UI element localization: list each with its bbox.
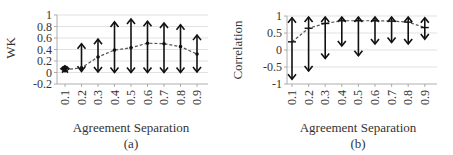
grid-lines [287, 16, 437, 67]
x-tick-label: 0.9 [418, 90, 432, 105]
y-axis [284, 16, 437, 87]
y-tick-label: -0.2 [33, 77, 52, 91]
x-axis-label: Agreement Separation [73, 120, 190, 135]
caption: (a) [124, 136, 138, 151]
y-tick-label: -0.5 [263, 60, 282, 74]
wk-chart: 10.80.60.40.20-0.2 0.10.20.30.40.50.60.7… [0, 0, 228, 155]
mean-point [195, 52, 199, 56]
y-axis-label: Correlation [230, 20, 245, 80]
mean-point [80, 66, 84, 70]
x-tick-label: 0.6 [368, 90, 382, 105]
mean-point [146, 41, 150, 45]
x-axis-label: Agreement Separation [300, 120, 417, 135]
x-tick-label: 0.5 [124, 90, 138, 105]
y-axis-label: WK [3, 37, 18, 59]
mean-point [63, 68, 67, 72]
y-tick-labels: 10.80.60.40.20-0.2 [33, 8, 52, 91]
range-arrows [288, 17, 429, 79]
x-tick-label: 0.7 [385, 90, 399, 105]
y-tick-label: 1 [276, 9, 282, 23]
x-tick-label: 0.8 [401, 90, 415, 105]
y-tick-label: 0.5 [267, 26, 282, 40]
mean-point [129, 46, 133, 50]
mean-point [179, 45, 183, 49]
correlation-chart: 10.50-0.5-1 0.10.20.30.40.50.60.70.80.9 … [225, 0, 453, 155]
y-tick-label: 0 [276, 43, 282, 57]
grid-lines [57, 15, 208, 73]
y-tick-label: -1 [272, 77, 282, 91]
mean-point [113, 48, 117, 52]
mean-point [96, 55, 100, 59]
mean-point [162, 42, 166, 46]
x-tick-label: 0.4 [108, 90, 122, 105]
x-tick-labels: 0.10.20.30.40.50.60.70.80.9 [285, 90, 432, 105]
x-tick-label: 0.1 [285, 90, 299, 105]
x-tick-labels: 0.10.20.30.40.50.60.70.80.9 [58, 90, 204, 105]
x-tick-label: 0.3 [318, 90, 332, 105]
caption: (b) [350, 136, 365, 151]
x-tick-label: 0.9 [190, 90, 204, 105]
x-tick-label: 0.5 [351, 90, 365, 105]
x-tick-label: 0.6 [141, 90, 155, 105]
x-tick-label: 0.8 [174, 90, 188, 105]
x-tick-label: 0.7 [157, 90, 171, 105]
x-tick-label: 0.2 [302, 90, 316, 105]
x-tick-label: 0.2 [75, 90, 89, 105]
x-tick-label: 0.3 [91, 90, 105, 105]
y-tick-labels: 10.50-0.5-1 [263, 9, 282, 91]
x-tick-label: 0.4 [335, 90, 349, 105]
x-tick-label: 0.1 [58, 90, 72, 105]
